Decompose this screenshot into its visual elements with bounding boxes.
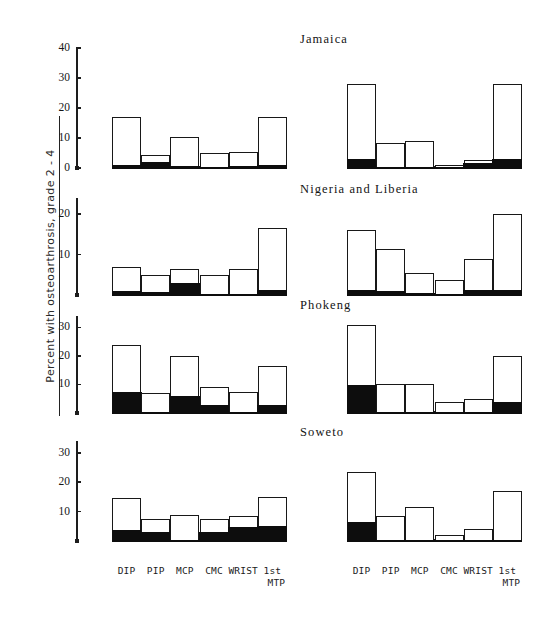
x-tick-label-wrist: WRIST	[463, 565, 493, 576]
y-tick-label: 10	[59, 506, 71, 518]
bar-severe-fill	[376, 540, 406, 542]
x-tick-label-pip: PIP	[382, 565, 400, 576]
y-tick	[76, 481, 81, 483]
bar-1st-mtp	[493, 491, 522, 541]
bar-pip	[141, 519, 170, 541]
x-tick-label-wrist: WRIST	[228, 565, 258, 576]
y-tick	[76, 452, 81, 454]
bar-group-right	[347, 441, 522, 541]
bar-mcp	[405, 507, 434, 541]
bar-severe-fill	[170, 540, 200, 542]
x-tick-label-mtp: MTP	[268, 577, 286, 588]
bar-cmc	[200, 519, 229, 541]
y-tick-label: 20	[59, 476, 71, 488]
bar-dip	[112, 498, 141, 541]
y-axis-line	[76, 441, 78, 541]
bar-wrist	[229, 516, 258, 541]
bar-severe-fill	[347, 522, 377, 541]
bar-severe-fill	[112, 530, 142, 542]
x-tick-label-1st: 1stMTP	[495, 565, 521, 588]
y-axis-zero-cap	[75, 539, 79, 543]
x-tick-label-dip: DIP	[353, 565, 371, 576]
x-tick-label-mcp: MCP	[176, 565, 194, 576]
x-tick-label-mcp: MCP	[411, 565, 429, 576]
x-tick-label-dip: DIP	[118, 565, 136, 576]
y-axis: 102030	[76, 441, 77, 541]
bar-1st-mtp	[258, 497, 287, 541]
x-tick-label-mtp: MTP	[503, 577, 521, 588]
bar-dip	[347, 472, 376, 541]
bar-mcp	[170, 515, 199, 541]
x-tick-label-cmc: CMC	[205, 565, 223, 576]
panel-soweto: Soweto102030	[0, 0, 558, 634]
y-tick	[76, 511, 81, 513]
bar-severe-fill	[199, 532, 229, 541]
bar-severe-fill	[434, 540, 464, 542]
x-tick-label-cmc: CMC	[440, 565, 458, 576]
bar-severe-fill	[257, 526, 287, 541]
figure-canvas: Percent with osteoarthrosis, grade 2 - 4…	[0, 0, 558, 634]
bar-wrist	[464, 529, 493, 541]
panel-title: Soweto	[300, 425, 344, 440]
bar-severe-fill	[228, 527, 258, 542]
bar-severe-fill	[463, 540, 493, 542]
bar-pip	[376, 516, 405, 541]
bar-severe-fill	[141, 532, 171, 541]
bar-severe-fill	[405, 540, 435, 542]
y-tick-label: 30	[59, 447, 71, 459]
bar-severe-fill	[492, 540, 522, 542]
bar-cmc	[435, 535, 464, 541]
x-tick-label-1st: 1stMTP	[260, 565, 286, 588]
bar-group-left	[112, 441, 287, 541]
x-tick-label-pip: PIP	[147, 565, 165, 576]
